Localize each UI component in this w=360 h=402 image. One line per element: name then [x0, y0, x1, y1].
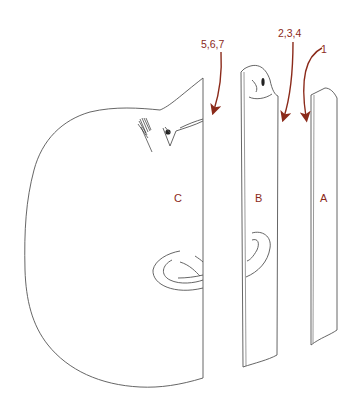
- eyebrow: [138, 118, 152, 152]
- arrow-1: [304, 48, 322, 117]
- eye: [163, 119, 203, 146]
- section-label-c: C: [174, 193, 182, 204]
- section-c: [25, 78, 203, 387]
- arrow-2-3-4: [284, 42, 293, 117]
- ear-fragment: [246, 232, 270, 277]
- section-label-a: A: [320, 193, 327, 204]
- sequence-label-1: 1: [321, 44, 327, 55]
- ear: [153, 251, 203, 290]
- nose-tip: [249, 78, 272, 99]
- sequence-label-5-6-7: 5,6,7: [201, 39, 224, 50]
- section-b: [241, 65, 278, 367]
- sequence-label-2-3-4: 2,3,4: [278, 28, 301, 39]
- arrow-5-6-7: [214, 52, 221, 110]
- section-label-b: B: [255, 193, 262, 204]
- arrows: [214, 42, 322, 117]
- section-a: [311, 88, 337, 345]
- diagram: 5,6,7 2,3,4 1 C B A: [0, 0, 360, 402]
